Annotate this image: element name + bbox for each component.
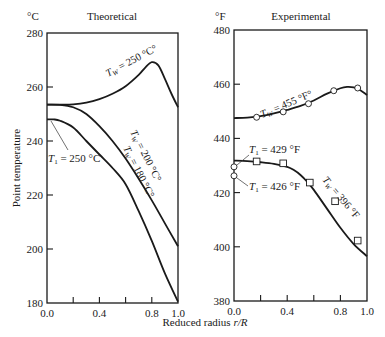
- series-line-0: [47, 62, 178, 107]
- data-point-square: [354, 237, 361, 244]
- figure-canvas: °C Theoretical 180200220240260280 0.00.4…: [0, 0, 385, 337]
- experimental-panel: °F Experimental 380400420440460480 0.00.…: [214, 10, 375, 317]
- x-tick-label: 0.4: [93, 307, 107, 319]
- annotation-t1-426f: T1 = 426 °F: [249, 180, 300, 194]
- x-tick-label: 0.8: [334, 305, 348, 317]
- x-tick-label: 0.4: [280, 305, 294, 317]
- annotation-t1-429f: T1 = 429 °F: [249, 143, 300, 157]
- y-tick-label: 480: [214, 24, 231, 36]
- left-unit-label: °C: [27, 10, 39, 22]
- y-tick-label: 440: [214, 132, 231, 144]
- left-series-group: [47, 62, 178, 302]
- data-point-circle: [305, 101, 311, 107]
- left-annotation-leader: [51, 121, 68, 150]
- y-tick-label: 400: [214, 241, 231, 253]
- x-axis-label: Reduced radius r/R: [163, 316, 248, 328]
- right-unit-label: °F: [215, 10, 226, 22]
- x-tick-label: 1.0: [360, 305, 374, 317]
- data-point-circle: [231, 173, 237, 179]
- y-tick-label: 220: [27, 189, 44, 201]
- x-tick-label: 0.0: [40, 307, 54, 319]
- x-tick-label: 0.8: [145, 307, 159, 319]
- data-point-circle: [355, 85, 361, 91]
- y-axis-label: Point temperature: [10, 129, 22, 208]
- y-tick-label: 260: [27, 81, 44, 93]
- right-x-axis: 0.00.40.81.0: [227, 295, 374, 317]
- label-tw-396f: TW = 396 °F: [319, 174, 362, 222]
- right-panel-title: Experimental: [271, 10, 330, 22]
- y-tick-label: 420: [214, 187, 231, 199]
- data-point-circle: [231, 164, 237, 170]
- left-panel-title: Theoretical: [87, 10, 137, 22]
- y-tick-label: 200: [27, 243, 44, 255]
- data-point-circle: [331, 88, 337, 94]
- data-point-square: [253, 158, 260, 165]
- data-point-circle: [254, 114, 260, 120]
- right-series-group: [231, 85, 367, 256]
- right-annotation-leader-2: [237, 178, 248, 186]
- y-tick-label: 460: [214, 78, 231, 90]
- annotation-t1-250c: T1 = 250 °C: [48, 152, 100, 166]
- data-point-square: [307, 179, 314, 186]
- right-plot-frame: [234, 30, 367, 301]
- y-tick-label: 240: [27, 135, 44, 147]
- theoretical-panel: °C Theoretical 180200220240260280 0.00.4…: [27, 10, 186, 319]
- left-y-axis: 180200220240260280: [27, 27, 54, 309]
- y-tick-label: 280: [27, 27, 44, 39]
- data-point-square: [280, 160, 287, 167]
